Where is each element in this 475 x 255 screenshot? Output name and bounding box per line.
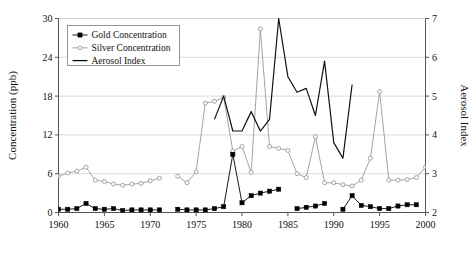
series-gold-marker (212, 207, 216, 211)
series-gold-marker (102, 207, 106, 211)
series-silver-marker (295, 172, 299, 176)
series-silver-marker (378, 90, 382, 94)
series-gold-marker (322, 201, 326, 205)
series-gold-marker (121, 208, 125, 212)
series-silver-marker (268, 145, 272, 149)
series-silver-marker (157, 176, 161, 180)
series-silver-marker (350, 184, 354, 188)
series-gold-marker (231, 152, 235, 156)
series-gold-marker (66, 207, 70, 211)
x-tick-label: 1960 (49, 219, 69, 230)
series-gold-marker (148, 208, 152, 212)
series-gold-marker (368, 205, 372, 209)
series-silver-marker (387, 178, 391, 182)
series-gold-marker (176, 207, 180, 211)
series-gold-marker (267, 189, 271, 193)
series-gold-marker (203, 208, 207, 212)
series-gold-marker (111, 207, 115, 211)
series-gold-marker (84, 201, 88, 205)
legend-marker-1 (78, 33, 82, 37)
y-tick-label-right: 3 (432, 168, 437, 179)
series-silver-marker (258, 27, 262, 31)
legend-label-2: Silver Concentration (92, 43, 171, 53)
series-silver-marker (277, 146, 281, 150)
y-tick-label-right: 4 (432, 129, 437, 140)
series-gold-marker (258, 191, 262, 195)
series-gold-marker (304, 205, 308, 209)
x-tick-label: 1965 (94, 219, 114, 230)
legend-label-1: Gold Concentration (92, 30, 167, 40)
x-tick-label: 1995 (370, 219, 390, 230)
series-silver-marker (368, 156, 372, 160)
x-tick-label: 1985 (278, 219, 298, 230)
series-gold-marker (387, 207, 391, 211)
y-tick-label-left: 12 (43, 129, 53, 140)
series-gold-marker (240, 201, 244, 205)
series-silver-marker (414, 176, 418, 180)
series-gold-marker (405, 203, 409, 207)
series-silver-marker (139, 181, 143, 185)
series-gold-marker (93, 207, 97, 211)
series-silver-marker (66, 171, 70, 175)
x-tick-label: 1990 (324, 219, 344, 230)
series-silver-marker (121, 183, 125, 187)
x-tick-label: 1980 (232, 219, 252, 230)
series-gold-marker (194, 208, 198, 212)
series-silver-marker (304, 176, 308, 180)
series-silver-marker (93, 178, 97, 182)
series-gold-marker (130, 208, 134, 212)
series-silver-marker (203, 101, 207, 105)
y-tick-label-left: 18 (43, 91, 53, 102)
series-silver-marker (396, 178, 400, 182)
y-tick-label-left: 0 (48, 207, 53, 218)
series-gold-marker (222, 205, 226, 209)
series-silver-marker (75, 169, 79, 173)
series-gold-marker (396, 204, 400, 208)
series-gold-marker (185, 208, 189, 212)
series-silver-marker (359, 178, 363, 182)
series-silver-marker (249, 170, 253, 174)
x-tick-label: 1970 (140, 219, 160, 230)
series-gold-marker (414, 203, 418, 207)
y-tick-label-right: 2 (432, 207, 437, 218)
series-silver-marker (212, 99, 216, 103)
series-silver-marker (240, 145, 244, 149)
chart-svg: 0612182430234567196019651970197519801985… (0, 0, 475, 255)
series-silver-marker (185, 181, 189, 185)
series-silver-marker (194, 170, 198, 174)
y-axis-title-left: Concentration (ppb) (6, 71, 19, 160)
series-silver-marker (286, 148, 290, 152)
series-gold-marker (341, 207, 345, 211)
chart-figure: 0612182430234567196019651970197519801985… (0, 0, 475, 255)
series-gold-marker (249, 194, 253, 198)
legend-label-3: Aerosol Index (92, 56, 146, 66)
y-axis-title-right: Aerosol Index (459, 84, 471, 147)
series-silver-marker (148, 179, 152, 183)
series-gold-marker (75, 207, 79, 211)
series-silver-marker (332, 181, 336, 185)
series-gold-marker (157, 208, 161, 212)
series-gold-marker (350, 194, 354, 198)
y-tick-label-right: 7 (432, 13, 437, 24)
series-silver-marker (84, 165, 88, 169)
series-silver-marker (102, 179, 106, 183)
series-gold-marker (277, 187, 281, 191)
series-silver-marker (313, 135, 317, 139)
y-tick-label-left: 6 (48, 168, 53, 179)
x-tick-label: 2000 (416, 219, 436, 230)
legend-marker-2 (78, 46, 82, 50)
series-gold-marker (139, 208, 143, 212)
y-tick-label-right: 6 (432, 52, 437, 63)
series-silver-marker (323, 181, 327, 185)
y-tick-label-left: 24 (43, 52, 53, 63)
series-silver-marker (176, 174, 180, 178)
series-silver-marker (130, 182, 134, 186)
series-silver-marker (112, 182, 116, 186)
series-silver-marker (341, 183, 345, 187)
series-gold-marker (359, 203, 363, 207)
series-silver-marker (405, 178, 409, 182)
series-gold-marker (378, 207, 382, 211)
y-tick-label-right: 5 (432, 91, 437, 102)
series-gold-marker (313, 204, 317, 208)
x-tick-label: 1975 (186, 219, 206, 230)
